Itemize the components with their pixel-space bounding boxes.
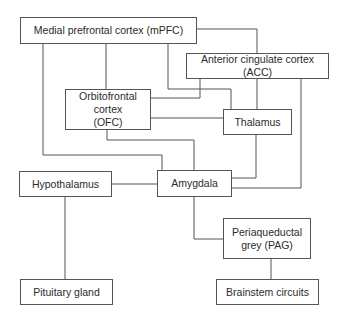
node-label: Thalamus	[234, 116, 280, 129]
node-label: Hypothalamus	[32, 178, 99, 191]
edge-mpfc-acc	[196, 29, 257, 53]
node-pag: Periaqueductal grey (PAG)	[223, 218, 311, 259]
node-label: Brainstem circuits	[226, 286, 309, 299]
edge-ofc-amygdala	[107, 129, 194, 170]
node-thalamus: Thalamus	[223, 109, 292, 135]
node-mpfc: Medial prefrontal cortex (mPFC)	[20, 17, 197, 44]
node-label: Periaqueductal grey (PAG)	[232, 226, 302, 252]
edge-amygdala-pag	[194, 196, 223, 239]
node-label: Amygdala	[171, 177, 218, 190]
node-label: Medial prefrontal cortex (mPFC)	[34, 24, 183, 37]
edge-thalamus-amygdala	[231, 134, 256, 178]
node-label: Orbitofrontal cortex (OFC)	[79, 90, 137, 129]
connector-lines	[0, 0, 344, 322]
node-pituitary: Pituitary gland	[20, 279, 113, 305]
node-amygdala: Amygdala	[157, 170, 232, 197]
node-label: Anterior cingulate cortex (ACC)	[189, 53, 326, 79]
node-hypothalamus: Hypothalamus	[19, 171, 112, 197]
node-acc: Anterior cingulate cortex (ACC)	[186, 53, 329, 79]
node-brainstem: Brainstem circuits	[216, 279, 319, 305]
node-label: Pituitary gland	[33, 286, 100, 299]
edge-acc-ofc	[150, 78, 200, 98]
node-ofc: Orbitofrontal cortex (OFC)	[65, 89, 151, 130]
